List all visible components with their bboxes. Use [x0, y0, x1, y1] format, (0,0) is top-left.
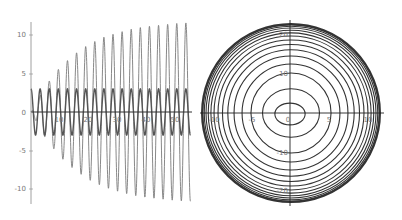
- y-tick-label: 20: [279, 31, 288, 39]
- x-tick-label: -10: [208, 116, 219, 124]
- x-tick-label: 5: [327, 116, 331, 124]
- x-tick-label: 10: [364, 116, 373, 124]
- y-tick-label: 10: [279, 70, 288, 78]
- x-tick-label: 30: [113, 116, 122, 124]
- x-tick-label: 20: [84, 116, 93, 124]
- y-tick-label: -10: [15, 185, 26, 193]
- y-tick-label: 5: [22, 70, 26, 78]
- x-tick-label: -5: [249, 116, 256, 124]
- contour-plot-canvas: -10 -5 0 5 10 20 10 -10 -20: [200, 0, 402, 220]
- y-tick-label: 0: [22, 109, 26, 117]
- x-tick-label: 50: [171, 116, 180, 124]
- x-tick-label: 40: [142, 116, 151, 124]
- elliptical-contour-plot: -10 -5 0 5 10 20 10 -10 -20: [200, 0, 402, 220]
- x-tick-label: 10: [55, 116, 64, 124]
- y-tick-label: -5: [19, 147, 26, 155]
- line-plot-canvas: 10 20 30 40 50 10 5 0 -5 -10: [0, 0, 200, 220]
- y-tick-label: -20: [277, 187, 288, 195]
- oscillation-line-plot: 10 20 30 40 50 10 5 0 -5 -10: [0, 0, 200, 220]
- y-tick-label: 10: [17, 31, 26, 39]
- x-tick-label: 0: [286, 116, 290, 124]
- y-tick-labels: 10 5 0 -5 -10: [15, 31, 26, 193]
- y-tick-label: -10: [277, 149, 288, 157]
